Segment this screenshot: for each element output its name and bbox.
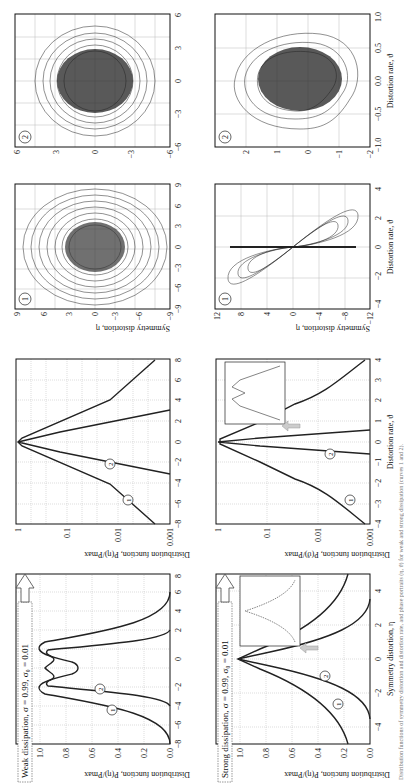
svg-text:−4: −4 [374,723,383,732]
svg-text:2: 2 [174,419,183,423]
svg-text:Distribution function, P(η)/Pm: Distribution function, P(η)/Pmax [284,770,390,779]
svg-text:4: 4 [263,312,272,316]
svg-text:−4: −4 [374,300,383,309]
svg-text:0.4: 0.4 [114,748,123,758]
svg-text:0.8: 0.8 [262,748,271,758]
svg-text:9: 9 [174,183,183,187]
svg-text:0.0: 0.0 [374,76,383,86]
weak-linear-distribution-plot: Weak dissipation, σ = 0.99, σ₀ = 0.01 1 … [0,569,200,784]
svg-text:0.0: 0.0 [366,748,375,758]
svg-text:−1.0: −1.0 [374,138,383,153]
svg-text:3: 3 [174,46,183,50]
svg-text:1: 1 [221,297,230,301]
svg-text:0.5: 0.5 [374,43,383,53]
svg-text:−8: −8 [174,740,183,749]
figure-caption: Distribution functions of symmetry disto… [398,4,404,780]
svg-text:1: 1 [14,528,23,532]
svg-text:1: 1 [214,528,223,532]
svg-text:−3: −3 [174,264,183,273]
svg-text:−2: −2 [174,458,183,467]
svg-text:0: 0 [174,440,183,444]
svg-text:4: 4 [374,358,383,362]
svg-text:−6: −6 [135,312,144,321]
strong-linear-distribution-plot: Strong dissipation, σ = 0.99, σ₀ = 0.01 … [200,569,400,784]
svg-text:Strong dissipation, σ = 0.99,: Strong dissipation, σ = 0.99, σ₀ = 0.01 [220,640,230,778]
svg-text:1: 1 [273,150,282,154]
svg-text:−6: −6 [174,284,183,293]
svg-text:2: 2 [174,628,183,632]
svg-text:0.4: 0.4 [314,748,323,758]
svg-text:1: 1 [21,297,30,301]
svg-text:2: 2 [322,674,330,678]
weak-dissipation-label: Weak dissipation, σ = 0.99, σ₀ = 0.01 [16,574,34,782]
svg-text:−2: −2 [374,479,383,488]
svg-text:−0.5: −0.5 [374,107,383,122]
svg-text:1: 1 [109,708,117,712]
svg-text:6: 6 [174,378,183,382]
svg-text:1: 1 [335,702,343,706]
svg-text:0.01: 0.01 [314,528,323,542]
svg-text:Distortion rate, ϑ: Distortion rate, ϑ [386,54,395,108]
svg-text:−2: −2 [174,683,183,692]
inset-plot [225,362,285,424]
svg-text:2: 2 [107,462,115,466]
svg-text:0.001: 0.001 [366,528,375,546]
svg-text:4: 4 [174,398,183,402]
strong-phase-portrait-2: 2 −2 −1 0 1 2 −1.0 −0.5 0.0 0.5 1.0 Dist… [200,4,400,169]
svg-text:0.1: 0.1 [63,528,72,538]
svg-text:0: 0 [374,657,383,661]
svg-text:−9: −9 [166,312,175,321]
svg-text:2: 2 [374,398,383,402]
svg-text:−1: −1 [335,150,344,159]
svg-text:3: 3 [52,150,61,154]
svg-text:0: 0 [174,657,183,661]
svg-text:−6: −6 [174,143,183,152]
svg-text:1.0: 1.0 [374,12,383,22]
svg-text:−9: −9 [174,305,183,314]
svg-text:Distribution function, P(η)/Pm: Distribution function, P(η)/Pmax [84,770,190,779]
svg-text:Symmetry distortion, η: Symmetry distortion, η [96,324,170,333]
svg-text:−4: −4 [174,479,183,488]
svg-text:2: 2 [97,687,105,691]
svg-text:Distortion rate, ϑ: Distortion rate, ϑ [386,220,395,274]
svg-text:2: 2 [374,216,383,220]
svg-text:8: 8 [174,358,183,362]
weak-log-distribution-plot: 1 2 0.001 0.01 0.1 1 −8 −6 −4 −2 0 2 4 6… [0,349,200,564]
svg-text:0.6: 0.6 [88,748,97,758]
svg-text:0.6: 0.6 [288,748,297,758]
svg-text:12: 12 [213,312,222,320]
svg-text:−6: −6 [174,500,183,509]
svg-text:4: 4 [374,187,383,191]
svg-text:Distribution function, P(η)/Pm: Distribution function, P(η)/Pmax [84,550,190,559]
svg-text:1.0: 1.0 [236,748,245,758]
svg-text:8: 8 [174,574,183,578]
svg-text:0: 0 [174,245,183,249]
weak-phase-portrait-1: 1 −9 −6 −3 0 3 6 9 −9 −6 −3 0 3 6 9 Symm… [0,174,200,334]
svg-text:−3: −3 [127,150,136,159]
strong-dissipation-label: Strong dissipation, σ = 0.99, σ₀ = 0.01 [216,574,234,782]
svg-text:−3: −3 [111,312,120,321]
svg-text:6: 6 [174,204,183,208]
svg-text:−8: −8 [174,520,183,529]
svg-text:9: 9 [13,312,22,316]
svg-text:0.0: 0.0 [166,748,175,758]
svg-text:0: 0 [374,440,383,444]
strong-log-distribution-plot: 1 2 0.001 0.01 0.1 1 −4 −3 −2 −1 0 1 2 3… [200,349,400,564]
svg-text:2: 2 [221,135,230,139]
arrow-icon [216,574,234,602]
svg-text:Weak dissipation, σ = 0.99, σ: Weak dissipation, σ = 0.99, σ₀ = 0.01 [20,644,30,778]
svg-text:−6: −6 [174,721,183,730]
svg-text:2: 2 [21,135,30,139]
svg-text:0: 0 [374,245,383,249]
svg-text:1: 1 [347,498,355,502]
arrow-icon [16,574,34,602]
svg-text:2: 2 [242,150,251,154]
svg-text:−3: −3 [374,500,383,509]
svg-text:1.0: 1.0 [36,748,45,758]
svg-text:2: 2 [327,452,335,456]
svg-text:−4: −4 [315,312,324,321]
svg-text:6: 6 [174,13,183,17]
svg-text:−2: −2 [374,272,383,281]
svg-text:Distribution function, P(ϑ)/Pm: Distribution function, P(ϑ)/Pmax [284,550,390,559]
svg-text:3: 3 [374,378,383,382]
